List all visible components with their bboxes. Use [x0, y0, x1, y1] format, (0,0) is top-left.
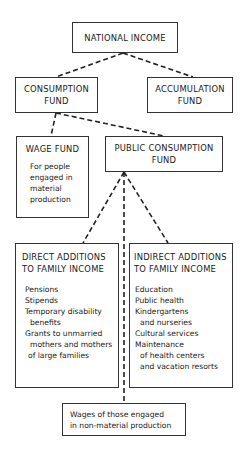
- indirect-item: Cultural services: [135, 328, 232, 339]
- wage-fund-node: WAGE FUND For people engaged in material…: [16, 136, 89, 218]
- consumption-fund-title-2: FUND: [16, 95, 97, 107]
- direct-item: Grants to unmarried: [25, 328, 118, 339]
- public-consumption-title-2: FUND: [106, 154, 222, 166]
- indirect-item: Education: [135, 284, 232, 295]
- public-consumption-fund-node: PUBLIC CONSUMPTION FUND: [105, 136, 223, 172]
- connector-lines: [0, 0, 248, 459]
- national-income-node: NATIONAL INCOME: [72, 22, 178, 53]
- non-material-wages-node: Wages of those engaged in non-material p…: [62, 403, 186, 436]
- wage-fund-line: production: [30, 194, 88, 205]
- accumulation-fund-node: ACCUMULATION FUND: [147, 77, 233, 113]
- direct-additions-title-1: DIRECT ADDITIONS: [22, 251, 118, 263]
- indirect-additions-node: INDIRECT ADDITIONS TO FAMILY INCOME Educ…: [129, 243, 233, 388]
- consumption-fund-node: CONSUMPTION FUND: [15, 77, 98, 113]
- public-consumption-title-1: PUBLIC CONSUMPTION: [106, 142, 222, 154]
- edge-national-to-accumulation: [123, 53, 193, 77]
- non-material-wages-line-2: in non-material production: [70, 420, 185, 431]
- accumulation-fund-title-1: ACCUMULATION: [148, 83, 232, 95]
- direct-additions-title-2: TO FAMILY INCOME: [22, 263, 118, 275]
- wage-fund-line: For people: [30, 161, 88, 172]
- indirect-item: and nurseries: [135, 317, 232, 328]
- direct-additions-node: DIRECT ADDITIONS TO FAMILY INCOME Pensio…: [15, 243, 119, 388]
- wage-fund-line: engaged in: [30, 172, 88, 183]
- indirect-item: of health centers: [135, 350, 232, 361]
- edge-consumption-to-wage: [51, 113, 56, 136]
- direct-item: mothers and mothers: [25, 339, 118, 350]
- wage-fund-line: material: [30, 183, 88, 194]
- direct-item: benefits: [25, 317, 118, 328]
- edge-public-to-indirect: [124, 172, 168, 243]
- indirect-item: Kindergartens: [135, 306, 232, 317]
- edge-public-to-direct: [83, 172, 124, 243]
- non-material-wages-line-1: Wages of those engaged: [70, 409, 185, 420]
- direct-item: Stipends: [25, 295, 118, 306]
- direct-item: Pensions: [25, 284, 118, 295]
- direct-item: Temporary disability: [25, 306, 118, 317]
- direct-item: of large families: [25, 350, 118, 361]
- accumulation-fund-title-2: FUND: [148, 95, 232, 107]
- indirect-item: and vacation resorts: [135, 361, 232, 372]
- national-income-title: NATIONAL INCOME: [73, 32, 177, 44]
- wage-fund-title: WAGE FUND: [17, 143, 88, 155]
- edge-national-to-consumption: [56, 53, 123, 77]
- indirect-additions-title-1: INDIRECT ADDITIONS: [134, 251, 232, 263]
- indirect-item: Maintenance: [135, 339, 232, 350]
- consumption-fund-title-1: CONSUMPTION: [16, 83, 97, 95]
- indirect-item: Public health: [135, 295, 232, 306]
- edge-consumption-to-public: [56, 113, 164, 136]
- indirect-additions-title-2: TO FAMILY INCOME: [134, 263, 232, 275]
